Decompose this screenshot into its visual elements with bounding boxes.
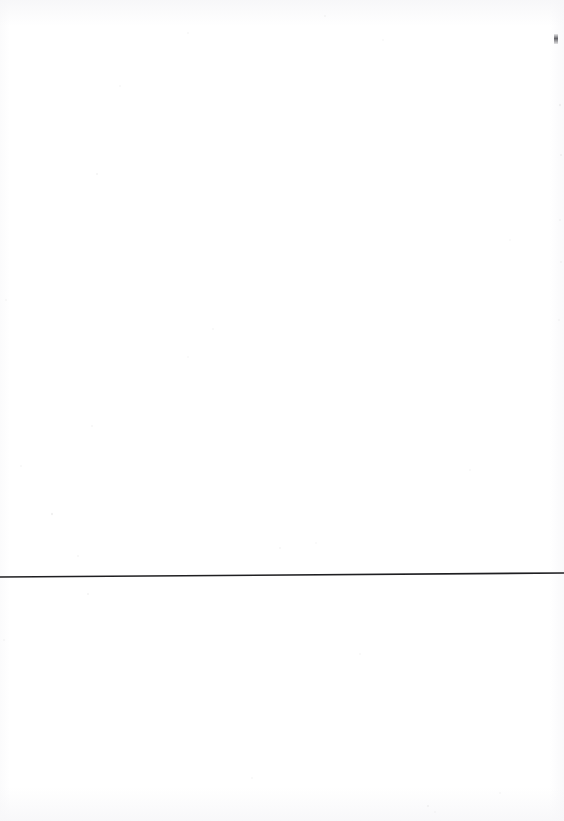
paper-background	[0, 0, 564, 821]
scan-noise-layer	[0, 0, 564, 821]
ink-speck	[554, 34, 558, 44]
horizontal-rule-layer	[0, 0, 564, 821]
scanned-page	[0, 0, 564, 821]
horizontal-rule	[0, 573, 564, 577]
